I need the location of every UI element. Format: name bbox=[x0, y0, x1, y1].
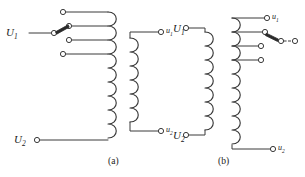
a-u2-terminal[interactable] bbox=[34, 137, 39, 142]
a-tap-terminal-1 bbox=[60, 9, 65, 14]
b-selector-out-terminal[interactable] bbox=[292, 38, 297, 43]
b-secondary-winding bbox=[232, 18, 240, 144]
b-tap-terminals[interactable] bbox=[258, 15, 269, 62]
b-primary-winding bbox=[205, 32, 213, 130]
a-primary-winding bbox=[108, 12, 116, 138]
caption-b: (b) bbox=[218, 156, 229, 166]
a-selector-blade[interactable] bbox=[56, 25, 70, 34]
b-tap-leads bbox=[232, 18, 264, 60]
a-secondary-leads bbox=[130, 32, 158, 131]
b-tap-terminal-4 bbox=[258, 57, 263, 62]
a-label-U1: U1 bbox=[6, 27, 18, 41]
b-selector-pivot[interactable] bbox=[278, 38, 283, 43]
b-label-U2: U2 bbox=[173, 130, 185, 144]
figure-container: .w{fill:none;stroke:#3a3a3a;stroke-width… bbox=[0, 0, 305, 177]
a-label-U2: U2 bbox=[14, 134, 26, 148]
a-tap-leads bbox=[66, 12, 108, 54]
a-tap-terminal-3 bbox=[66, 37, 71, 42]
caption-a: (a) bbox=[108, 156, 119, 166]
a-secondary-winding bbox=[130, 38, 138, 122]
a-u1-small-terminal[interactable] bbox=[158, 29, 163, 34]
a-tap-terminal-4 bbox=[60, 51, 65, 56]
b-secondary-bottom-lead bbox=[232, 145, 270, 149]
a-tap-terminals[interactable] bbox=[60, 9, 71, 56]
b-label-u1: u1 bbox=[272, 13, 279, 23]
b-tap-terminal-1 bbox=[264, 15, 269, 20]
circuit-drawing: .w{fill:none;stroke:#3a3a3a;stroke-width… bbox=[0, 0, 305, 177]
b-label-U1: U1 bbox=[173, 23, 185, 37]
b-label-u2: u2 bbox=[278, 144, 285, 154]
b-selector-blade[interactable] bbox=[265, 33, 278, 41]
b-primary-leads bbox=[189, 28, 205, 135]
a-u2-small-terminal[interactable] bbox=[158, 128, 163, 133]
a-label-u1: u1 bbox=[166, 27, 173, 37]
b-tap-terminal-3 bbox=[258, 43, 263, 48]
b-u2-small-terminal[interactable] bbox=[270, 146, 275, 151]
a-label-u2: u2 bbox=[166, 126, 173, 136]
